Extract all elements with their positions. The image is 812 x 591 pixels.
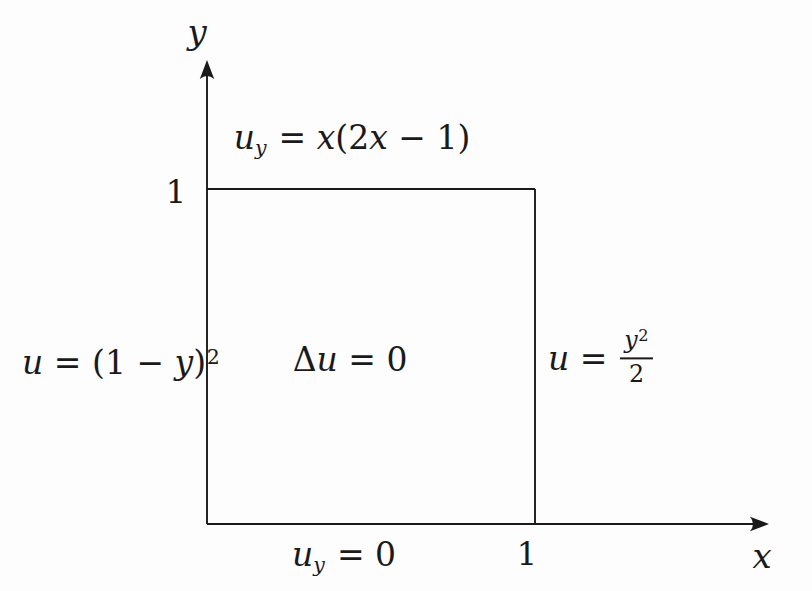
eq-left-boundary: u = (1 − y)2 (22, 346, 220, 379)
eq-top-var-x1: x (317, 118, 336, 157)
x-axis-label: x (752, 539, 771, 573)
eq-right-base: u (548, 339, 569, 378)
eq-bottom-equals: = (326, 535, 375, 574)
x-axis-label-text: x (752, 536, 771, 576)
eq-left-base: u (22, 343, 43, 382)
figure-canvas: y x 1 1 uy = x(2x − 1) u = (1 − y)2 Δu =… (0, 0, 812, 591)
eq-interior-delta: Δ (293, 340, 317, 379)
eq-right-equals: = (569, 339, 618, 378)
eq-interior-pde: Δu = 0 (293, 343, 408, 376)
eq-right-boundary: u = y22 (548, 332, 655, 390)
fraction-denominator: 2 (620, 359, 652, 387)
fraction-numerator-exponent: 2 (638, 327, 648, 346)
eq-interior-rhs: 0 (386, 340, 407, 379)
eq-bottom-rhs: 0 (375, 535, 396, 574)
eq-interior-base: u (316, 340, 337, 379)
eq-top-equals: = (268, 118, 317, 157)
eq-top-paren-close: − 1) (388, 118, 471, 157)
eq-top-var-x2: x (369, 118, 388, 157)
eq-left-equals: = (43, 343, 92, 382)
eq-bottom-boundary: uy = 0 (292, 538, 396, 571)
eq-left-paren-open: (1 − (92, 343, 175, 382)
axes-and-square-drawing (0, 0, 812, 591)
fraction-numerator-var: y (624, 326, 637, 354)
eq-top-boundary: uy = x(2x − 1) (234, 121, 471, 154)
eq-left-exponent: 2 (207, 344, 220, 368)
eq-left-var-y: y (175, 343, 194, 382)
eq-bottom-subscript: y (313, 552, 325, 576)
x-axis-tick-1: 1 (517, 538, 537, 570)
fraction-numerator: y2 (620, 329, 652, 359)
y-axis-tick-1: 1 (166, 176, 186, 208)
eq-top-base: u (234, 118, 255, 157)
eq-top-paren-open: (2 (335, 118, 369, 157)
y-axis-label: y (187, 15, 206, 49)
x-axis-tick-1-text: 1 (517, 535, 537, 573)
eq-left-paren-close: ) (193, 343, 206, 382)
fraction-y-squared-over-2: y22 (620, 329, 652, 387)
y-axis-label-text: y (187, 12, 206, 52)
eq-bottom-base: u (292, 535, 313, 574)
eq-interior-equals: = (338, 340, 387, 379)
eq-top-subscript: y (255, 135, 267, 159)
y-axis-tick-1-text: 1 (166, 173, 186, 211)
